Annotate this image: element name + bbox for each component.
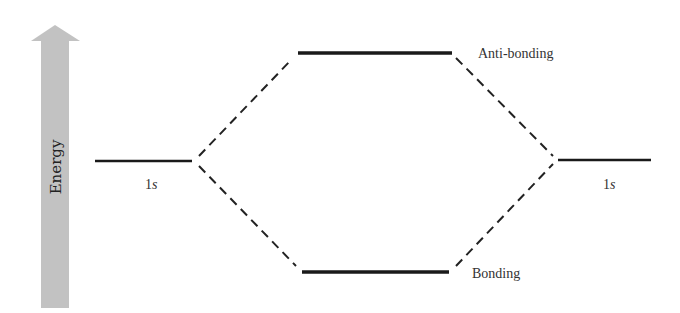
bonding-label: Bonding [472, 266, 520, 281]
dash-left-to-antibonding [199, 60, 291, 156]
left-1s-label: 1s [145, 177, 158, 192]
mo-diagram: Energy 1s 1s Anti-bonding Bonding [0, 0, 680, 313]
dash-left-to-bonding [199, 166, 296, 266]
correlation-lines [199, 58, 553, 266]
dash-antibonding-to-right [456, 58, 553, 156]
energy-axis-label: Energy [47, 139, 65, 194]
dash-bonding-to-right [456, 164, 553, 266]
antibonding-label: Anti-bonding [478, 46, 553, 61]
right-1s-label: 1s [603, 177, 616, 192]
